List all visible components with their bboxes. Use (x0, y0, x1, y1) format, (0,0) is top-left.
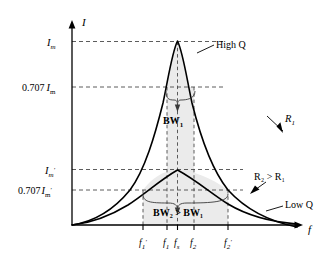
svg-text:Im′: Im′ (44, 165, 56, 179)
level-dashed-lines (72, 42, 243, 191)
y-tick-label-p707im: 0.707Im (22, 82, 56, 96)
svg-text:0.707Im′: 0.707Im′ (18, 185, 52, 199)
y-axis-arrowhead (69, 20, 76, 29)
svg-text:f2′: f2′ (224, 238, 232, 251)
bw1-label-sub: 1 (180, 121, 184, 129)
x-tick-f2-sub: 2 (193, 243, 197, 251)
svg-text:f2: f2 (190, 238, 197, 251)
bw2-compare-label: BW₂ > BW₁ (153, 207, 203, 218)
resonance-figure: I f Im 0.707Im Im′ 0.707Im′ f1′ (0, 0, 325, 255)
svg-text:fs: fs (174, 238, 180, 251)
x-tick-label-f1prime: f1′ (139, 238, 147, 251)
r1-label: R1 (284, 113, 295, 127)
x-axis-ticks (143, 225, 228, 230)
svg-text:Im: Im (46, 37, 56, 51)
x-tick-label-f1: f1 (163, 238, 169, 251)
y-tick-label-p707imprime: 0.707Im′ (18, 185, 52, 199)
high-q-leader (197, 45, 214, 53)
y-axis-label: I (81, 16, 87, 28)
r-compare-label: R₂ > R₁ (254, 171, 285, 182)
svg-text:f1′: f1′ (139, 238, 147, 251)
x-tick-f2prime-prime: ′ (230, 238, 232, 246)
x-tick-f1-sub: 1 (166, 243, 170, 251)
r1-label-sub: 1 (291, 119, 295, 127)
r1-leader-arrow (277, 122, 284, 133)
x-tick-fs-sub: s (177, 243, 180, 251)
x-tick-label-f2prime: f2′ (224, 238, 232, 251)
low-q-leader (266, 206, 283, 211)
high-q-label: High Q (216, 39, 247, 50)
y-tick-im-sub: m (51, 43, 56, 51)
y-tick-p707imprime-prefix: 0.707 (18, 185, 41, 196)
y-tick-imprime-prime: ′ (54, 166, 56, 174)
bw1-label-text: BW (163, 115, 180, 126)
low-q-label: Low Q (285, 199, 314, 210)
svg-text:f1: f1 (163, 238, 169, 251)
r-compare-leader-arrow (250, 186, 260, 195)
y-tick-p707im-sub: m (50, 88, 56, 96)
resonance-chart-svg: I f Im 0.707Im Im′ 0.707Im′ f1′ (0, 0, 325, 255)
y-tick-p707im-prefix: 0.707 (22, 82, 45, 93)
y-tick-label-im: Im (46, 37, 56, 51)
svg-text:R1: R1 (284, 113, 295, 127)
y-tick-label-imprime: Im′ (44, 165, 56, 179)
x-axis-label: f (308, 223, 313, 235)
svg-text:0.707Im: 0.707Im (22, 82, 56, 96)
low-q-crest-fill (143, 170, 228, 190)
x-tick-label-fs: fs (174, 238, 180, 251)
x-tick-label-f2: f2 (190, 238, 197, 251)
x-tick-f1prime-prime: ′ (145, 238, 147, 246)
y-tick-p707imprime-prime: ′ (50, 186, 52, 194)
